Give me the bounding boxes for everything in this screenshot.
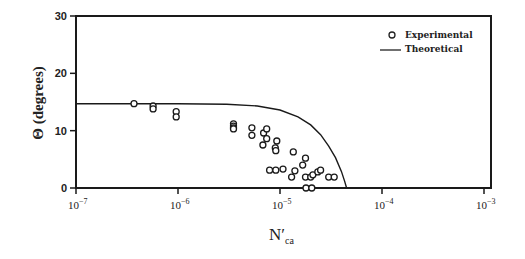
x-axis-ticks: 10−710−610−510−410−3 — [68, 188, 496, 211]
plot-border — [76, 16, 491, 188]
experimental-point — [264, 136, 270, 142]
experimental-point — [292, 168, 298, 174]
experimental-point — [150, 106, 156, 112]
experimental-point — [273, 148, 279, 154]
legend-theoretical-label: Theoretical — [405, 44, 463, 54]
x-tick-label: 10−6 — [170, 197, 190, 211]
experimental-point — [249, 125, 255, 131]
y-tick-label: 30 — [55, 10, 67, 22]
experimental-point — [303, 185, 309, 191]
y-axis-ticks: 0102030 — [55, 10, 76, 194]
experimental-point — [290, 149, 296, 155]
experimental-point — [300, 162, 306, 168]
legend-experimental-marker-icon — [389, 32, 395, 38]
experimental-point — [318, 167, 324, 173]
experimental-point — [231, 126, 237, 132]
experimental-point — [260, 142, 266, 148]
experimental-point — [267, 167, 273, 173]
y-axis-title: Θ (degrees) — [30, 66, 47, 139]
legend-experimental-label: Experimental — [405, 30, 473, 40]
experimental-points — [131, 101, 337, 191]
x-axis-title-subscript: ca — [285, 235, 294, 246]
legend: Experimental Theoretical — [380, 30, 473, 54]
experimental-point — [309, 185, 315, 191]
x-axis-title-main: N′ — [269, 225, 285, 244]
experimental-point — [331, 174, 337, 180]
experimental-point — [249, 132, 255, 138]
x-tick-label: 10−3 — [476, 197, 496, 211]
chart: 0102030 10−710−610−510−410−3 Experimenta… — [0, 0, 525, 259]
experimental-point — [273, 167, 279, 173]
experimental-point — [289, 174, 295, 180]
x-axis-title: N′ ca — [269, 225, 294, 246]
experimental-point — [173, 114, 179, 120]
y-tick-label: 10 — [55, 125, 67, 137]
experimental-point — [264, 126, 270, 132]
x-tick-label: 10−5 — [272, 197, 292, 211]
y-tick-label: 20 — [55, 67, 67, 79]
x-tick-label: 10−7 — [68, 197, 88, 211]
y-axis-title-text: Θ (degrees) — [30, 66, 47, 139]
experimental-point — [280, 166, 286, 172]
experimental-point — [303, 155, 309, 161]
experimental-point — [274, 138, 280, 144]
x-tick-label: 10−4 — [374, 197, 394, 211]
experimental-point — [131, 101, 137, 107]
plot-frame — [76, 16, 491, 188]
y-tick-label: 0 — [61, 182, 67, 194]
